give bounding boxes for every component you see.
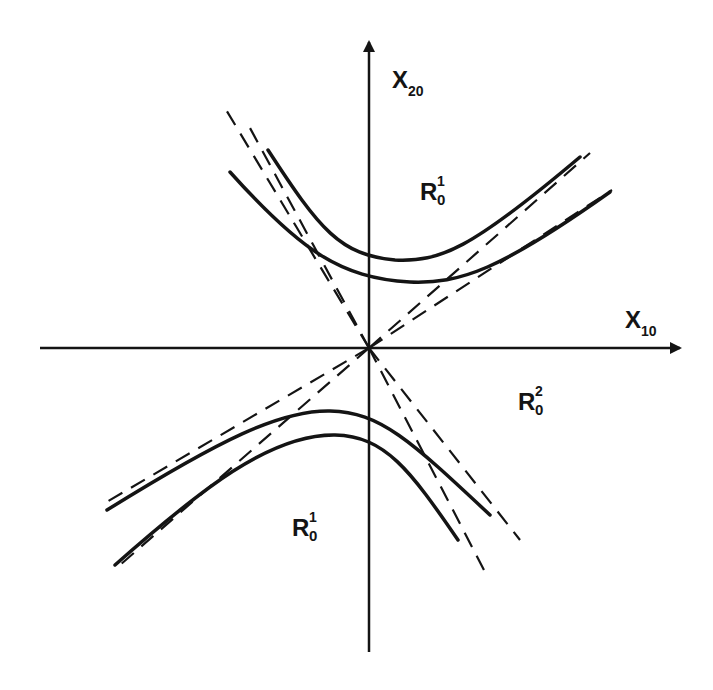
x10-label-main: X — [625, 306, 641, 333]
x10-label-sub: 10 — [641, 323, 657, 339]
region-lower-main: R — [292, 514, 309, 541]
region-lower-sub: 0 — [309, 528, 317, 543]
asymptote-lower-left-steep — [120, 348, 369, 565]
asymptote-upper-right-steep — [369, 153, 590, 348]
hyperbola-diagram — [0, 0, 713, 690]
region-right-sub: 0 — [535, 402, 543, 417]
region-upper-sub: 0 — [437, 192, 445, 207]
x20-axis-label: X20 — [392, 68, 424, 92]
lower-hyperbola-branches — [107, 411, 490, 565]
x20-label-main: X — [392, 66, 408, 93]
asymptote-upper-left-shallow — [225, 108, 369, 348]
region-label-upper: R 1 0 — [420, 180, 437, 204]
asymptotes — [105, 108, 612, 572]
asymptote-lower-left-shallow — [105, 348, 369, 503]
lower-outer-branch — [115, 435, 458, 565]
x20-label-sub: 20 — [408, 83, 424, 99]
asymptote-upper-left-steep — [250, 128, 369, 348]
x10-axis-label: X10 — [625, 308, 657, 332]
region-label-lower: R 1 0 — [292, 516, 309, 540]
region-upper-main: R — [420, 178, 437, 205]
region-upper-sup: 1 — [437, 174, 445, 188]
region-lower-sup: 1 — [309, 510, 317, 524]
lower-inner-branch — [107, 411, 490, 515]
region-label-right: R 2 0 — [518, 390, 535, 414]
region-right-sup: 2 — [535, 384, 543, 398]
upper-hyperbola-branches — [230, 150, 610, 282]
asymptote-lower-right-shallow — [369, 348, 520, 540]
asymptote-lower-right-steep — [369, 348, 485, 572]
region-right-main: R — [518, 388, 535, 415]
